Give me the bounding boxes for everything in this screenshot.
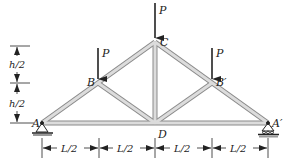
dim-label-L-half-4: L/2 (229, 143, 246, 154)
truss-diagram: P P P B C B′ D A A′ h/2 h/2 (0, 0, 294, 167)
vertical-dimensions (10, 46, 34, 123)
load-label-Bp: P (215, 47, 224, 60)
dim-label-L-half-3: L/2 (173, 143, 190, 154)
load-label-C: P (158, 4, 167, 17)
dim-label-h-half-upper: h/2 (9, 59, 25, 70)
node-label-Ap: A′ (271, 117, 283, 130)
dim-label-h-half-lower: h/2 (9, 98, 25, 109)
load-label-B: P (101, 47, 110, 60)
truss-members (42, 42, 268, 123)
dim-label-L-half-2: L/2 (116, 143, 133, 154)
node-label-D: D (157, 128, 167, 141)
dim-label-L-half-1: L/2 (60, 143, 77, 154)
node-label-Bp: B′ (215, 76, 227, 89)
node-label-B: B (86, 76, 95, 89)
node-label-C: C (160, 36, 169, 49)
